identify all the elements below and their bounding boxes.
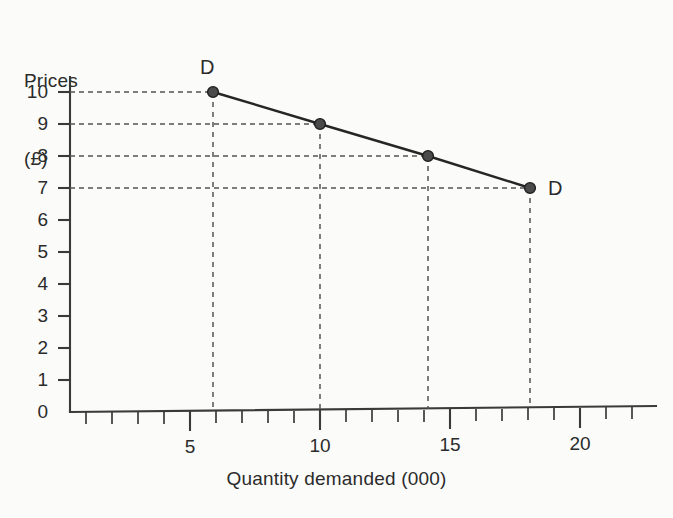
y-tick-label-0: 0 bbox=[14, 402, 48, 421]
y-axis-ticks bbox=[58, 92, 70, 380]
x-tick-label-20: 20 bbox=[560, 434, 600, 453]
y-tick-label-7: 7 bbox=[14, 178, 48, 197]
y-tick-label-6: 6 bbox=[14, 210, 48, 229]
y-tick-label-2: 2 bbox=[14, 338, 48, 357]
y-tick-label-3: 3 bbox=[14, 306, 48, 325]
y-tick-label-1: 1 bbox=[14, 370, 48, 389]
demand-label-end: D bbox=[548, 178, 562, 198]
demand-curve-chart: Prices (£) bbox=[0, 0, 673, 518]
x-axis-title: Quantity demanded (000) bbox=[0, 468, 673, 490]
y-tick-label-5: 5 bbox=[14, 242, 48, 261]
demand-label-start: D bbox=[200, 57, 214, 77]
data-point bbox=[423, 151, 434, 162]
x-tick-label-5: 5 bbox=[170, 437, 210, 456]
horizontal-gridlines bbox=[70, 92, 530, 188]
x-tick-label-15: 15 bbox=[430, 435, 470, 454]
y-tick-label-10: 10 bbox=[14, 82, 48, 101]
y-tick-label-4: 4 bbox=[14, 274, 48, 293]
y-tick-label-8: 8 bbox=[14, 146, 48, 165]
y-tick-label-9: 9 bbox=[14, 114, 48, 133]
data-point bbox=[208, 87, 219, 98]
x-tick-label-10: 10 bbox=[300, 436, 340, 455]
demand-curve-line bbox=[213, 92, 530, 188]
x-axis-line bbox=[70, 406, 656, 412]
data-point bbox=[315, 119, 326, 130]
x-axis-major-ticks bbox=[190, 408, 580, 431]
data-point bbox=[525, 183, 536, 194]
